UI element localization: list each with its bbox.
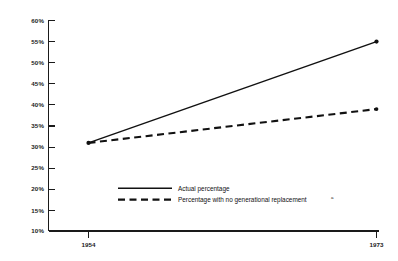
y-tick-label: 25%	[31, 164, 44, 171]
y-tick-label: 40%	[31, 101, 44, 108]
y-tick-label: 45%	[31, 80, 44, 87]
data-point-marker	[374, 40, 378, 44]
y-tick-label: 50%	[31, 59, 44, 66]
x-tick-label: 1954	[81, 241, 96, 248]
y-tick-label: 30%	[31, 143, 44, 150]
data-point-marker	[86, 141, 90, 145]
y-tick-label: 35%	[31, 122, 44, 129]
y-tick-label: 20%	[31, 185, 44, 192]
y-tick-label: 10%	[31, 227, 44, 234]
y-tick-label: 15%	[31, 207, 44, 214]
y-tick-label: 55%	[31, 38, 44, 45]
x-tick-label: 1973	[369, 241, 384, 248]
chart-canvas: 60% 55% 50% 45% 40% 35% 30% 25% 20% 15% …	[0, 0, 398, 261]
line-chart: 60% 55% 50% 45% 40% 35% 30% 25% 20% 15% …	[0, 0, 398, 261]
data-point-marker	[375, 107, 379, 111]
y-tick-label: 60%	[31, 17, 44, 24]
legend-label: Actual percentage	[178, 185, 230, 193]
legend-label: Percentage with no generational replacem…	[178, 196, 307, 204]
chart-background	[0, 0, 398, 261]
